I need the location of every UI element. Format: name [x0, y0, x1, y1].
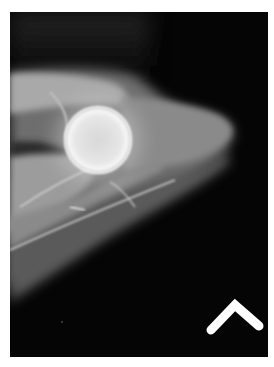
speck	[61, 321, 63, 323]
xray-canvas	[10, 12, 268, 357]
xray-image	[10, 12, 268, 357]
orientation-marker-icon	[211, 305, 259, 330]
